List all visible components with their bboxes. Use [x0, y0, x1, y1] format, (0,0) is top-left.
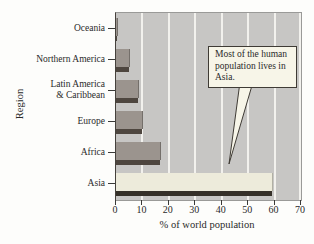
y-tick	[108, 90, 115, 91]
x-tick-label: 20	[163, 204, 173, 215]
y-tick-label: Latin America & Caribbean	[5, 79, 105, 101]
x-tick-label: 60	[269, 204, 279, 215]
bar-face	[116, 49, 130, 67]
bar-shadow	[116, 36, 117, 41]
x-tick-label: 50	[242, 204, 252, 215]
bar-shadow	[116, 129, 142, 134]
bar	[116, 142, 160, 165]
bar-shadow	[116, 191, 272, 196]
y-tick-label: Asia	[5, 178, 105, 189]
x-tick-label: 0	[113, 204, 118, 215]
callout-text: Most of the human population lives in As…	[215, 49, 287, 82]
bar	[116, 18, 117, 41]
x-tick-label: 30	[189, 204, 199, 215]
gridline	[141, 13, 143, 200]
bar	[116, 49, 129, 72]
bar	[116, 80, 138, 103]
bar-shadow	[116, 160, 160, 165]
plot-area	[115, 12, 302, 201]
gridline	[247, 13, 249, 200]
bar-face	[116, 173, 273, 191]
x-tick-label: 70	[295, 204, 305, 215]
bar-shadow	[116, 98, 138, 103]
gridline	[299, 13, 301, 200]
y-tick-label: Europe	[5, 116, 105, 127]
gridline	[221, 13, 223, 200]
gridline	[274, 13, 276, 200]
y-tick	[108, 121, 115, 122]
y-tick	[108, 59, 115, 60]
bar	[116, 173, 272, 196]
bar-chart-figure: Region % of world population Most of the…	[0, 0, 314, 244]
bar-face	[116, 142, 161, 160]
x-tick-label: 40	[216, 204, 226, 215]
y-tick-label: Africa	[5, 147, 105, 158]
bar-shadow	[116, 67, 129, 72]
y-tick-label: Northern America	[5, 53, 105, 64]
x-tick-label: 10	[136, 204, 146, 215]
callout-box: Most of the human population lives in As…	[208, 46, 297, 88]
bar-face	[116, 80, 139, 98]
gridline	[194, 13, 196, 200]
gridline	[168, 13, 170, 200]
y-tick	[108, 152, 115, 153]
bar	[116, 111, 142, 134]
bar-face	[116, 18, 118, 36]
bar-face	[116, 111, 143, 129]
y-tick-label: Oceania	[5, 22, 105, 33]
y-tick	[108, 28, 115, 29]
y-tick	[108, 183, 115, 184]
x-axis-title: % of world population	[160, 219, 255, 230]
